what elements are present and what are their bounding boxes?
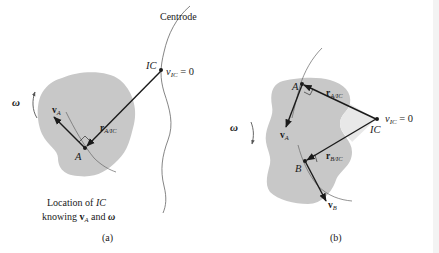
centrode-curve [161, 6, 190, 213]
panel-label-b: (b) [330, 232, 342, 244]
omega-label-b: ω [230, 121, 238, 133]
ic-label-a: IC [145, 60, 157, 71]
ic-label-b: IC [369, 124, 381, 135]
v-ic-label-b: vIC = 0 [385, 113, 413, 126]
omega-rotation-icon-b [251, 122, 253, 144]
point-b [303, 159, 307, 163]
point-a [83, 146, 87, 150]
point-a-label-b: A [291, 81, 299, 92]
centrode-label: Centrode [160, 11, 197, 22]
rigid-body-a [38, 72, 136, 176]
point-a-b [300, 82, 304, 86]
point-ic [159, 68, 163, 72]
panel-label-a: (a) [102, 232, 113, 244]
point-ic-b [375, 117, 379, 121]
figure-b: ω A B IC vIC = 0 rA/IC rB/IC vA vB (b) [230, 48, 413, 244]
page-edge [433, 0, 439, 253]
diagram-canvas: Centrode ω IC vIC = 0 vA rA/IC A Locatio… [0, 0, 439, 253]
point-a-label: A [74, 151, 82, 162]
point-b-label: B [295, 163, 302, 174]
caption-line-2: knowing vA and ω [42, 211, 115, 223]
v-ic-label-a: vIC = 0 [166, 66, 194, 79]
figure-a: Centrode ω IC vIC = 0 vA rA/IC A Locatio… [12, 6, 197, 244]
caption-line-1: Location of IC [47, 197, 106, 208]
omega-label-a: ω [12, 96, 20, 108]
omega-rotation-icon [33, 92, 37, 118]
v-b-label: vB [328, 200, 337, 211]
